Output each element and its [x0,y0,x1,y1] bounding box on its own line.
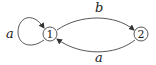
automaton-diagram: a b a 1 2 [0,0,156,65]
edge-1-1 [18,18,44,45]
edge-1-2 [57,18,134,30]
node-1-label: 1 [47,28,54,41]
node-2: 2 [134,27,148,41]
edge-label-2-1: a [95,50,103,65]
edge-label-1-2: b [95,0,103,15]
node-2-label: 2 [138,28,145,41]
node-1: 1 [43,27,57,41]
edge-label-1-1: a [6,26,14,41]
